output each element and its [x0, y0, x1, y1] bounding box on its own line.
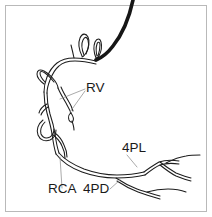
leader-lines-group	[60, 89, 137, 189]
figure-container: RV4PLRCA4PD	[0, 0, 212, 217]
rca-mid-inner	[47, 93, 59, 153]
acute-loop-inner	[41, 122, 54, 138]
rca-mid-outer	[44, 92, 56, 154]
pl-branch-outer	[145, 163, 179, 175]
label-rca: RCA	[48, 181, 77, 196]
conus-loop-left-inner	[82, 37, 88, 55]
4pd-leader	[110, 180, 120, 189]
label-rv: RV	[86, 80, 105, 95]
rv-branch-tip-loop	[69, 113, 74, 122]
coronary-angiogram-diagram: RV4PLRCA4PD	[0, 0, 212, 217]
pd-branch-outer	[116, 178, 160, 196]
upper-stub	[71, 45, 74, 58]
label-4pd: 4PD	[83, 181, 110, 196]
pl-tip-upper	[166, 155, 200, 163]
rca-distal-inner	[59, 153, 144, 175]
4pl-leader	[127, 155, 137, 167]
pd-tip	[147, 189, 186, 192]
guide-catheter	[96, 0, 133, 60]
guide-catheter-group	[96, 0, 133, 60]
rv-branch-mid-b	[61, 87, 73, 111]
label-4pl: 4PL	[122, 140, 147, 155]
rv-branch-tip-stem	[72, 121, 74, 130]
rv-branch-mid-a	[58, 88, 71, 113]
rv-leader-upper	[60, 89, 85, 99]
